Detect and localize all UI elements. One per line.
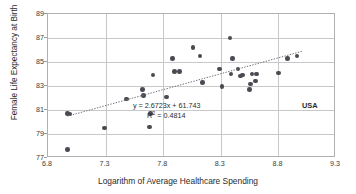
data-point bbox=[295, 54, 300, 59]
y-axis-tick-mark bbox=[44, 109, 47, 110]
gridline-horizontal bbox=[48, 38, 334, 39]
y-axis-tick-mark bbox=[44, 85, 47, 86]
data-point bbox=[220, 84, 225, 89]
plot-area: y = 2.6723x + 61.743 R2 = 0.4814 USA bbox=[47, 13, 335, 157]
regression-equation-label: y = 2.6723x + 61.743 bbox=[133, 101, 201, 110]
y-axis-tick-label: 87 bbox=[18, 33, 44, 42]
data-point bbox=[164, 95, 169, 100]
y-axis-tick-mark bbox=[44, 13, 47, 14]
y-axis-tick-mark bbox=[44, 37, 47, 38]
data-point bbox=[124, 97, 129, 102]
x-axis-tick-label: 9.3 bbox=[320, 159, 350, 168]
data-point bbox=[141, 93, 146, 98]
data-point bbox=[177, 69, 182, 74]
y-axis-tick-mark bbox=[44, 133, 47, 134]
y-axis-tick-mark bbox=[44, 157, 47, 158]
y-axis-tick-label: 85 bbox=[18, 57, 44, 66]
data-point bbox=[198, 54, 203, 59]
r-squared-label: R2 = 0.4814 bbox=[147, 110, 185, 120]
usa-annotation-label: USA bbox=[302, 101, 318, 110]
data-point bbox=[170, 56, 175, 61]
data-point bbox=[200, 80, 205, 85]
x-axis-tick-label: 7.3 bbox=[90, 159, 120, 168]
x-axis-tick-label: 8.8 bbox=[262, 159, 292, 168]
gridline-horizontal bbox=[48, 62, 334, 63]
y-axis-tick-label: 89 bbox=[18, 9, 44, 18]
x-axis-tick-label: 6.8 bbox=[32, 159, 62, 168]
data-point bbox=[254, 72, 259, 77]
data-point bbox=[140, 87, 145, 92]
data-point bbox=[276, 71, 281, 76]
data-point bbox=[65, 147, 70, 152]
scatter-chart: Female Life Expectancy at Birth Logarith… bbox=[0, 0, 356, 194]
gridline-vertical bbox=[278, 14, 279, 156]
gridline-horizontal bbox=[48, 110, 334, 111]
data-point bbox=[240, 73, 245, 78]
y-axis-tick-mark bbox=[44, 61, 47, 62]
gridline-vertical bbox=[163, 14, 164, 156]
data-point bbox=[229, 72, 234, 77]
data-point bbox=[151, 73, 156, 78]
data-point bbox=[228, 36, 233, 41]
data-point bbox=[247, 87, 252, 92]
data-point bbox=[68, 112, 73, 117]
r-squared-value: = 0.4814 bbox=[155, 111, 185, 120]
data-point bbox=[102, 126, 107, 131]
data-point bbox=[253, 79, 258, 84]
data-point bbox=[230, 56, 235, 61]
x-axis-tick-label: 8.3 bbox=[205, 159, 235, 168]
data-point bbox=[285, 56, 290, 61]
y-axis-tick-label: 79 bbox=[18, 129, 44, 138]
gridline-vertical bbox=[106, 14, 107, 156]
gridline-horizontal bbox=[48, 86, 334, 87]
gridline-horizontal bbox=[48, 134, 334, 135]
y-axis-tick-label: 83 bbox=[18, 81, 44, 90]
x-axis-title: Logarithm of Average Healthcare Spending bbox=[0, 176, 356, 186]
data-point bbox=[191, 45, 196, 50]
y-axis-tick-label: 81 bbox=[18, 105, 44, 114]
x-axis-tick-label: 7.8 bbox=[147, 159, 177, 168]
data-point bbox=[147, 125, 152, 130]
data-point bbox=[236, 67, 241, 72]
